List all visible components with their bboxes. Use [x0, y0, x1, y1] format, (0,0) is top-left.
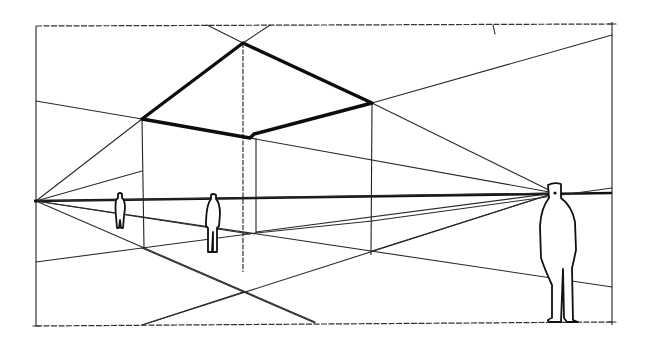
- small-distant-figure: [116, 193, 126, 228]
- auxiliary-construction-lines: [36, 25, 612, 325]
- middle-figure: [206, 194, 220, 252]
- picture-frame: [33, 22, 616, 326]
- roof-vertical-lines: [142, 43, 372, 272]
- perspective-drawing: [0, 0, 647, 342]
- roof-outline: [142, 43, 372, 138]
- large-foreground-figure: [540, 183, 578, 322]
- right-vanishing-point: [553, 191, 556, 194]
- left-vanishing-point: [34, 199, 37, 202]
- perspective-diagram: [0, 0, 647, 342]
- right-vp-construction-lines: [142, 103, 555, 325]
